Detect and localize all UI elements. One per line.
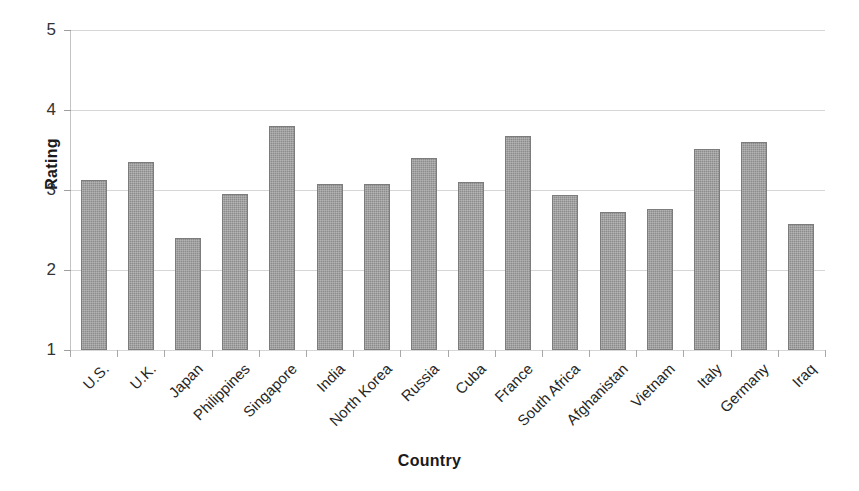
x-axis-tick bbox=[778, 350, 779, 357]
x-axis-tick bbox=[636, 350, 637, 357]
y-axis-tick-label: 5 bbox=[47, 20, 56, 40]
x-axis-category-label-text: India bbox=[313, 360, 348, 395]
y-axis-tick-label: 2 bbox=[47, 260, 56, 280]
x-axis-category-label-text: Italy bbox=[694, 360, 725, 391]
bar[interactable] bbox=[694, 149, 720, 350]
clipped-chart-title bbox=[0, 0, 859, 8]
x-axis-category-label-text: U.S. bbox=[79, 360, 112, 393]
y-axis-tick bbox=[64, 190, 71, 191]
bar[interactable] bbox=[222, 194, 248, 350]
x-axis-tick bbox=[542, 350, 543, 357]
y-axis-tick-label: 1 bbox=[47, 340, 56, 360]
x-axis-tick bbox=[259, 350, 260, 357]
bar[interactable] bbox=[81, 180, 107, 350]
x-axis-tick bbox=[212, 350, 213, 357]
x-axis-tick bbox=[117, 350, 118, 357]
y-axis-tick-label: 4 bbox=[47, 100, 56, 120]
bar[interactable] bbox=[505, 136, 531, 350]
x-axis-category-label-text: Japan bbox=[165, 360, 206, 401]
y-axis-tick bbox=[64, 110, 71, 111]
x-axis-category-label-text: U.K. bbox=[126, 360, 159, 393]
bar[interactable] bbox=[128, 162, 154, 350]
x-axis-tick bbox=[448, 350, 449, 357]
y-axis-tick-label: 3 bbox=[47, 180, 56, 200]
gridline-y bbox=[70, 110, 825, 111]
bar[interactable] bbox=[364, 184, 390, 350]
x-axis-tick bbox=[731, 350, 732, 357]
bar-chart: Rating 12345 U.S.U.K.JapanPhilippinesSin… bbox=[0, 0, 859, 491]
x-axis-category-label-text: Iraq bbox=[789, 360, 819, 390]
x-axis-category-label-text: France bbox=[491, 360, 536, 405]
x-axis-category-label-text: Cuba bbox=[452, 360, 489, 397]
bar[interactable] bbox=[458, 182, 484, 350]
x-axis-tick bbox=[495, 350, 496, 357]
x-axis-category-label-text: Russia bbox=[397, 360, 441, 404]
x-axis-tick bbox=[589, 350, 590, 357]
x-axis-tick bbox=[306, 350, 307, 357]
y-axis-tick bbox=[64, 270, 71, 271]
y-axis-tick-labels: 12345 bbox=[0, 0, 56, 491]
x-axis-tick bbox=[70, 350, 71, 357]
x-axis-tick bbox=[400, 350, 401, 357]
gridline-y bbox=[70, 30, 825, 31]
y-axis-tick bbox=[64, 30, 71, 31]
x-axis-tick bbox=[164, 350, 165, 357]
bar[interactable] bbox=[175, 238, 201, 350]
plot-area bbox=[70, 30, 825, 350]
x-axis-tick bbox=[825, 350, 826, 357]
x-axis-tick bbox=[353, 350, 354, 357]
x-axis-title: Country bbox=[0, 452, 859, 470]
bar[interactable] bbox=[741, 142, 767, 350]
x-axis-tick bbox=[683, 350, 684, 357]
